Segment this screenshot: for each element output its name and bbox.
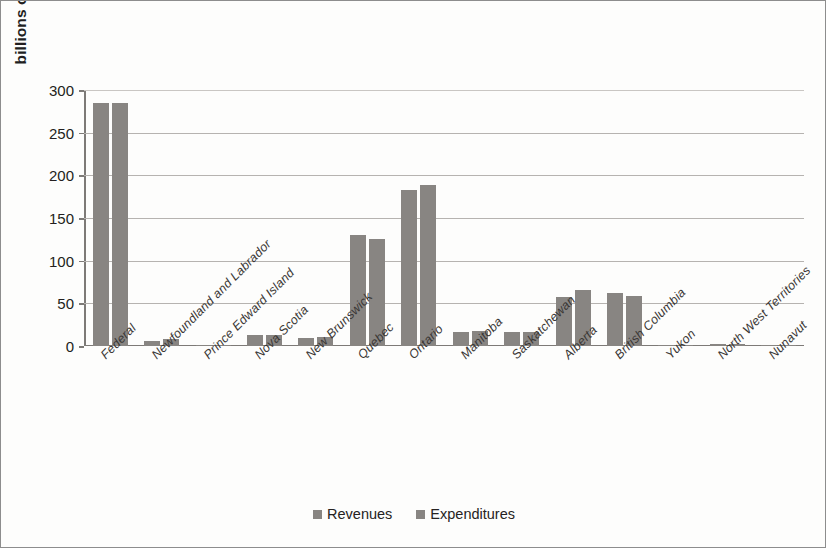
legend-swatch-icon xyxy=(416,510,425,519)
gridline xyxy=(84,303,804,304)
bar-group xyxy=(401,90,436,346)
y-axis-tick-labels: 300250200150100500 xyxy=(28,90,74,346)
bar-revenues xyxy=(93,103,109,346)
legend-label: Expenditures xyxy=(430,506,515,522)
y-axis-tick xyxy=(79,261,84,263)
y-axis-tick xyxy=(79,175,84,177)
y-axis-tick xyxy=(79,303,84,305)
bar-expenditures xyxy=(420,185,436,346)
legend-swatch-icon xyxy=(313,510,322,519)
chart-legend: RevenuesExpenditures xyxy=(1,506,826,522)
y-axis-tick-label: 0 xyxy=(30,338,74,355)
x-axis-line xyxy=(84,345,804,347)
legend-item: Expenditures xyxy=(416,506,515,522)
legend-label: Revenues xyxy=(327,506,392,522)
y-axis-tick-label: 100 xyxy=(30,252,74,269)
legend-item: Revenues xyxy=(313,506,392,522)
gridline xyxy=(84,175,804,176)
bar-group xyxy=(710,90,745,346)
y-axis-tick-label: 150 xyxy=(30,210,74,227)
y-axis-tick-label: 250 xyxy=(30,124,74,141)
bar-revenues xyxy=(401,190,417,346)
chart-screenshot: billions of current $ Cnd 30025020015010… xyxy=(0,0,826,548)
x-axis-tick-labels: FederalNewfoundland and LabradorPrince E… xyxy=(84,348,824,478)
y-axis-tick xyxy=(79,133,84,135)
bar-group xyxy=(504,90,539,346)
gridline xyxy=(84,261,804,262)
y-axis-tick-label: 50 xyxy=(30,295,74,312)
y-axis-tick xyxy=(79,218,84,220)
gridline xyxy=(84,133,804,134)
y-axis-tick xyxy=(79,90,84,92)
gridline xyxy=(84,218,804,219)
gridline xyxy=(84,90,804,91)
y-axis-tick-label: 300 xyxy=(30,82,74,99)
bar-expenditures xyxy=(112,103,128,346)
bar-group xyxy=(453,90,488,346)
bar-group xyxy=(144,90,179,346)
bar-revenues xyxy=(607,293,623,346)
bar-group xyxy=(93,90,128,346)
y-axis-tick-label: 200 xyxy=(30,167,74,184)
bar-group xyxy=(607,90,642,346)
